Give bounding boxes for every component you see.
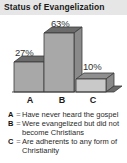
page-title: Status of Evangelization: [4, 2, 127, 13]
legend-description-b: Were evangelized but did not become Chri…: [22, 119, 127, 137]
chart-figure: Status of Evangelization: [0, 0, 127, 163]
category-label-a: A: [22, 95, 38, 105]
legend-item-a: A = Have never heard the gospel: [8, 110, 127, 119]
legend-item-c: C = Are adherents to any form of Christi…: [8, 137, 127, 155]
data-label-a: 27%: [15, 47, 33, 58]
legend-description-a: Have never heard the gospel: [22, 110, 127, 119]
chart-legend: A = Have never heard the gospel B = Were…: [8, 110, 127, 155]
legend-key-a: A: [8, 110, 15, 119]
chart-title-bar: Status of Evangelization: [0, 0, 127, 15]
legend-key-c: C: [8, 137, 15, 146]
legend-description-c: Are adherents to any form of Christianit…: [22, 137, 127, 155]
data-label-c: 10%: [83, 61, 101, 72]
plot-area: 27% 63% 10% A B C: [0, 15, 127, 110]
legend-item-b: B = Were evangelized but did not become …: [8, 119, 127, 137]
legend-key-b: B: [8, 119, 15, 128]
data-label-b: 63%: [51, 18, 69, 29]
category-label-b: B: [54, 95, 70, 105]
bar-c: [76, 73, 114, 92]
legend-separator-c: =: [15, 137, 22, 146]
legend-separator-a: =: [15, 110, 22, 119]
category-label-c: C: [85, 95, 101, 105]
legend-separator-b: =: [15, 119, 22, 128]
